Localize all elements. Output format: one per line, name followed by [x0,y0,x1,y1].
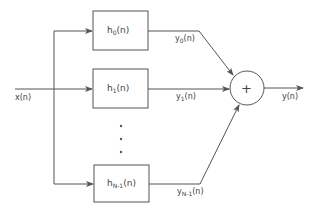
diagram-canvas [0,0,317,213]
filter-label-hN-1: hN-1(n) [107,179,136,189]
ellipsis-dots [120,125,122,153]
signal-label-y1: y1(n) [176,93,196,102]
summer-plus-icon: + [241,82,252,95]
signal-label-y0: y0(n) [175,35,195,44]
signal-label-yN-1: yN-1(n) [177,188,204,197]
filter-label-h0: h0(n) [107,26,129,36]
output-label: y(n) [282,93,298,101]
filter-label-h1: h1(n) [107,84,129,94]
input-label: x(n) [15,94,31,102]
output-line-yN-1 [149,105,239,184]
